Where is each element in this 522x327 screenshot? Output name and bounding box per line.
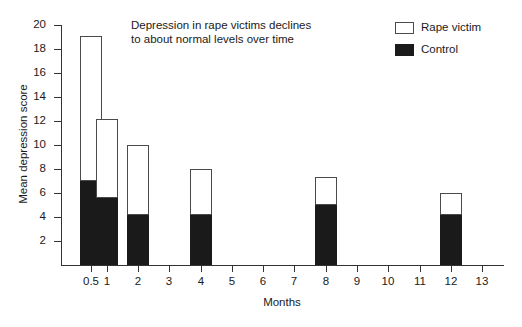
bar-segment-rape-victim <box>315 177 337 205</box>
legend-label-control: Control <box>421 42 458 57</box>
bar-stack <box>96 0 118 327</box>
x-tick-mark <box>263 266 264 272</box>
y-tick-label: 2 <box>0 235 46 246</box>
x-tick-mark <box>420 266 421 272</box>
y-tick-mark <box>54 241 61 242</box>
y-tick-label: 18 <box>0 43 46 54</box>
bar-segment-rape-victim <box>440 193 462 215</box>
bar-segment-control <box>315 205 337 265</box>
y-axis-title: Mean depression score <box>17 54 29 234</box>
x-tick-mark <box>482 266 483 272</box>
y-tick-mark <box>54 193 61 194</box>
x-axis-title: Months <box>242 296 322 308</box>
y-tick-mark <box>54 97 61 98</box>
y-tick-label: 20 <box>0 19 46 30</box>
x-tick-label: 13 <box>462 275 502 288</box>
bar-stack <box>190 0 212 327</box>
y-tick-mark <box>54 73 61 74</box>
bar-segment-rape-victim <box>127 145 149 215</box>
y-tick-mark <box>54 145 61 146</box>
bar-segment-rape-victim <box>96 119 118 198</box>
y-tick-mark <box>54 49 61 50</box>
x-tick-mark <box>388 266 389 272</box>
legend-swatch-rape-victim <box>395 22 414 34</box>
chart-title: Depression in rape victims declines to a… <box>131 18 346 46</box>
bar-stack <box>315 0 337 327</box>
bar-segment-control <box>440 215 462 265</box>
y-tick-mark <box>54 217 61 218</box>
x-tick-mark <box>357 266 358 272</box>
y-tick-mark <box>54 121 61 122</box>
x-tick-mark <box>232 266 233 272</box>
y-tick-mark <box>54 169 61 170</box>
x-tick-mark <box>169 266 170 272</box>
y-axis-line <box>61 25 62 266</box>
chart-figure: 2468101214161820 0.512345678910111213 De… <box>0 0 522 327</box>
y-tick-mark <box>54 25 61 26</box>
bar-segment-control <box>127 215 149 265</box>
x-tick-mark <box>294 266 295 272</box>
chart-title-line-1: Depression in rape victims declines <box>131 18 346 32</box>
chart-title-line-2: to about normal levels over time <box>131 32 346 46</box>
bar-stack <box>127 0 149 327</box>
legend-label-rape-victim: Rape victim <box>421 20 481 35</box>
bar-segment-rape-victim <box>190 169 212 215</box>
legend-swatch-control <box>395 44 414 56</box>
bar-segment-control <box>96 198 118 265</box>
bar-segment-control <box>190 215 212 265</box>
